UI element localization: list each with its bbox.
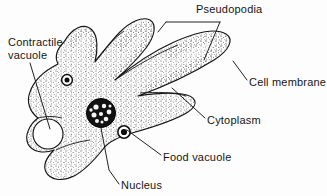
label-food-vacuole: Food vacuole xyxy=(163,151,231,164)
nucleus xyxy=(87,99,116,128)
leader-cell-membrane xyxy=(233,61,247,80)
food-vacuole xyxy=(118,126,130,138)
label-cytoplasm: Cytoplasm xyxy=(207,114,261,127)
label-contractile-vacuole: Contractilevacuole xyxy=(8,36,63,61)
cytoplasm-stipple xyxy=(0,0,327,196)
label-contractile-vacuole-line2: vacuole xyxy=(8,49,47,61)
secondary-vacuole xyxy=(62,75,73,86)
label-nucleus: Nucleus xyxy=(121,179,162,192)
amoeba-diagram: Pseudopodia Contractilevacuole Cell memb… xyxy=(0,0,327,196)
label-pseudopodia: Pseudopodia xyxy=(196,3,262,16)
diagram-canvas xyxy=(0,0,327,196)
label-cell-membrane: Cell membrane xyxy=(249,76,326,89)
label-contractile-vacuole-line1: Contractile xyxy=(8,36,63,48)
leader-food-vacuole xyxy=(127,130,161,155)
